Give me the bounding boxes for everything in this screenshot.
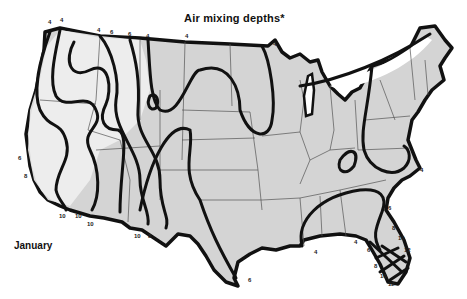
label-fl-e-12: 12	[404, 247, 411, 253]
label-east-4: 4	[420, 167, 424, 173]
label-gulf-2: 4	[354, 239, 358, 245]
label-north-2: 4	[60, 17, 64, 23]
us-map: 4 4 4 6 6 4 4 4 6 8 10 10 10 10 8 6 4 4 …	[0, 0, 467, 299]
label-fl-w-8: 8	[374, 263, 378, 269]
label-sw-1: 10	[59, 213, 66, 219]
label-fl-w-12: 12	[388, 281, 395, 287]
label-north-4: 6	[110, 29, 114, 35]
label-fl-w-10: 10	[380, 273, 387, 279]
label-sw-3: 10	[87, 221, 94, 227]
label-north-7: 4	[185, 33, 189, 39]
label-west-6: 6	[18, 155, 22, 161]
label-fl-e-10: 10	[398, 235, 405, 241]
label-north-1: 4	[48, 19, 52, 25]
label-texas-6: 6	[248, 277, 252, 283]
label-east-6: 6	[388, 205, 392, 211]
label-west-8: 8	[24, 173, 28, 179]
label-sw-2: 10	[75, 213, 82, 219]
label-gulf-1: 4	[314, 249, 318, 255]
label-north-3: 4	[97, 27, 101, 33]
label-sw-4: 10	[134, 233, 141, 239]
